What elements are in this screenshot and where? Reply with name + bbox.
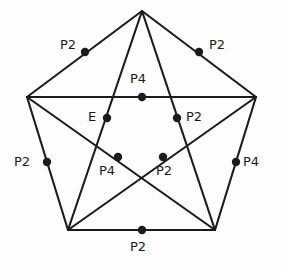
point-label-pt-inner-lower-left: P4 [99,164,115,177]
point-label-pt-inner-left: E [88,110,96,123]
point-label-pt-inner-right: P2 [186,110,202,123]
point-dot-pt-inner-lower-left [114,153,122,161]
point-dot-pt-inner-right [173,114,181,122]
point-label-pt-upper-left-edge: P2 [60,38,76,51]
point-dot-pt-upper-right-edge [195,48,203,56]
point-dot-pt-bottom-edge [138,226,146,234]
point-label-pt-center-top-diagonal: P4 [130,72,146,85]
point-dot-pt-inner-lower-right [159,153,167,161]
pentagram-figure: P2P2P4EP2P2P4P4P2P2 [0,0,282,274]
point-label-pt-right-edge: P4 [243,155,259,168]
point-dot-pt-right-edge [232,158,240,166]
point-label-pt-upper-right-edge: P2 [209,38,225,51]
pentagram-geometry [0,0,282,274]
point-dot-pt-center-top-diagonal [138,93,146,101]
point-label-pt-bottom-edge: P2 [130,240,146,253]
point-dot-pt-inner-left [103,114,111,122]
point-dot-pt-left-edge [43,158,51,166]
point-dot-pt-upper-left-edge [81,48,89,56]
point-label-pt-left-edge: P2 [14,155,30,168]
point-label-pt-inner-lower-right: P2 [156,164,172,177]
